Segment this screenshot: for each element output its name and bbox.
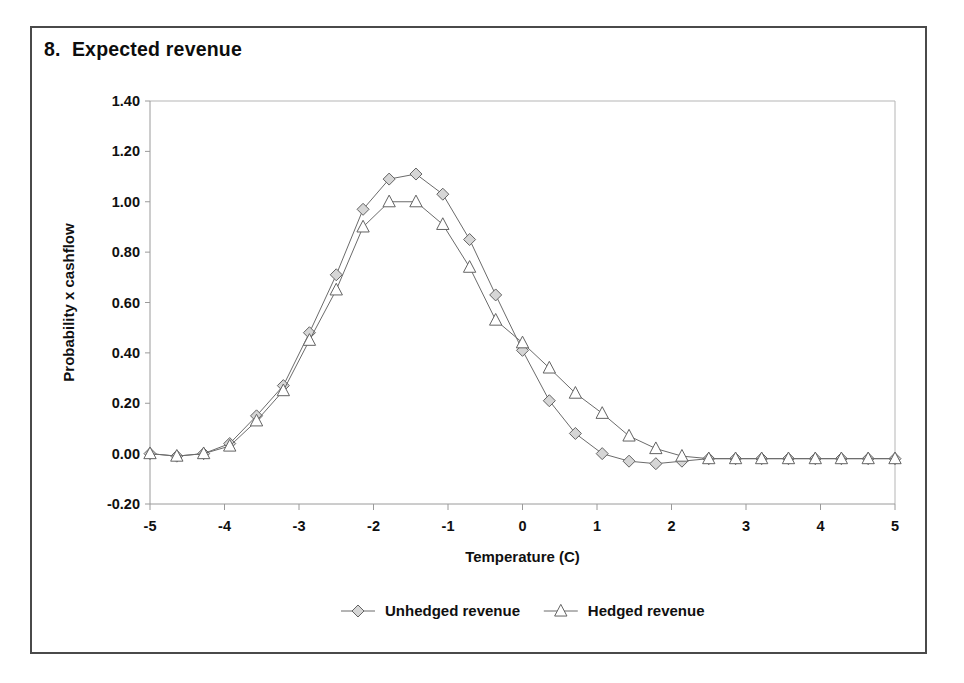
x-tick-label: 0 [518,518,526,534]
triangle-marker-icon [383,195,395,207]
diamond-marker-icon [437,188,449,200]
legend-label: Hedged revenue [588,602,705,619]
x-tick-label: 1 [593,518,601,534]
legend-item[interactable]: Unhedged revenue [341,602,520,619]
data-series [144,195,901,464]
x-tick-label: -3 [293,518,306,534]
triangle-marker-icon [555,604,567,616]
x-tick-label: 2 [667,518,675,534]
figure-frame: 8. Expected revenue -0.200.000.200.400.6… [30,26,927,654]
triangle-marker-icon [303,334,315,346]
x-tick-label: 5 [891,518,899,534]
x-tick-label: -4 [218,518,231,534]
triangle-marker-icon [623,429,635,441]
gridlines [150,101,895,504]
triangle-marker-icon [650,442,662,454]
y-axis: -0.200.000.200.400.600.801.001.201.40 [107,93,150,512]
x-tick-label: 3 [742,518,750,534]
triangle-marker-icon [437,218,449,230]
x-tick-label: -2 [367,518,380,534]
triangle-marker-icon [569,387,581,399]
legend-item[interactable]: Hedged revenue [544,602,705,619]
chart-area: -0.200.000.200.400.600.801.001.201.40 -5… [32,28,929,656]
y-tick-label: 0.20 [112,395,140,411]
diamond-marker-icon [490,289,502,301]
triangle-marker-icon [463,261,475,273]
y-tick-label: 0.40 [112,345,140,361]
diamond-marker-icon [623,455,635,467]
x-axis: -5-4-3-2-1012345 [144,504,899,534]
diamond-marker-icon [352,605,364,617]
data-series-group [144,168,901,470]
diamond-marker-icon [464,234,476,246]
x-tick-label: -5 [144,518,157,534]
chart-legend: Unhedged revenueHedged revenue [341,602,705,619]
x-tick-label: -1 [442,518,455,534]
diamond-marker-icon [596,448,608,460]
triangle-marker-icon [543,361,555,373]
y-tick-label: -0.20 [107,496,140,512]
triangle-marker-icon [596,407,608,419]
expected-revenue-chart: -0.200.000.200.400.600.801.001.201.40 -5… [32,28,929,656]
diamond-marker-icon [410,168,422,180]
y-tick-label: 0.00 [112,446,140,462]
y-tick-label: 0.60 [112,295,140,311]
triangle-marker-icon [410,195,422,207]
y-axis-title: Probability x cashflow [60,223,77,382]
diamond-marker-icon [650,458,662,470]
y-tick-label: 1.00 [112,194,140,210]
x-axis-title: Temperature (C) [465,548,580,565]
legend-label: Unhedged revenue [385,602,520,619]
triangle-marker-icon [357,220,369,232]
diamond-marker-icon [543,395,555,407]
y-tick-label: 0.80 [112,244,140,260]
diamond-marker-icon [569,427,581,439]
y-tick-label: 1.20 [112,143,140,159]
triangle-marker-icon [490,313,502,325]
x-tick-label: 4 [816,518,824,534]
y-tick-label: 1.40 [112,93,140,109]
